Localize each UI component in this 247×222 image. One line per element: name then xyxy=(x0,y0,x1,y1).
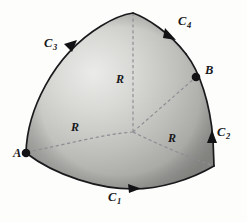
label-curve-c4-subscript: 4 xyxy=(186,20,191,30)
label-curve-c3-base: C xyxy=(44,36,53,50)
label-curve-c1-subscript: 1 xyxy=(117,196,121,206)
figure-container: A B C 1 C 2 C 3 C 4 R R R xyxy=(0,0,247,222)
label-curve-c3: C 3 xyxy=(44,36,58,52)
label-curve-c1: C 1 xyxy=(108,190,121,206)
vertex-dot-b xyxy=(192,73,201,82)
label-curve-c4-base: C xyxy=(178,14,187,28)
label-curve-c2-base: C xyxy=(217,125,226,139)
vertex-dot-a xyxy=(22,149,31,158)
label-point-a: A xyxy=(12,146,21,160)
label-curve-c4: C 4 xyxy=(178,14,191,30)
arrowhead-c4-icon xyxy=(163,28,176,40)
spherical-octant-diagram: A B C 1 C 2 C 3 C 4 R R R xyxy=(0,0,247,222)
label-curve-c1-base: C xyxy=(108,190,117,204)
octant-surface-edge-shading xyxy=(26,13,214,189)
label-radius-right: R xyxy=(167,131,176,145)
label-curve-c2: C 2 xyxy=(217,125,231,141)
label-radius-top: R xyxy=(115,72,124,86)
label-curve-c2-subscript: 2 xyxy=(225,131,231,141)
label-curve-c3-subscript: 3 xyxy=(52,42,58,52)
label-radius-left: R xyxy=(70,120,79,134)
label-point-b: B xyxy=(204,63,213,77)
